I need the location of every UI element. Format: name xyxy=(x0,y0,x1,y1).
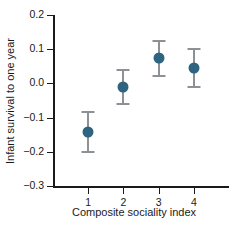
plot-area: 0.20.10.0−0.1−0.2−0.3 1234 xyxy=(53,15,229,188)
x-axis-label: Composite sociality index xyxy=(36,206,232,218)
error-bar-cap-lower xyxy=(82,151,95,153)
x-tick: 1 xyxy=(88,188,89,194)
data-point-marker xyxy=(83,126,94,137)
y-tick: −0.2 xyxy=(47,152,53,153)
chart-figure: Infant survival to one year 0.20.10.0−0.… xyxy=(0,0,237,228)
y-tick-label: −0.1 xyxy=(23,111,44,123)
x-tick: 2 xyxy=(123,188,124,194)
error-bar-cap-lower xyxy=(152,75,165,77)
y-tick: −0.3 xyxy=(47,186,53,187)
x-axis-line xyxy=(53,186,229,188)
error-bar-cap-upper xyxy=(117,69,130,71)
data-point-marker xyxy=(153,52,164,63)
data-point-marker xyxy=(118,82,129,93)
y-tick-label: 0.0 xyxy=(29,76,44,88)
error-bar-cap-upper xyxy=(187,48,200,50)
y-tick: 0.1 xyxy=(47,49,53,50)
y-tick: 0.0 xyxy=(47,83,53,84)
y-tick-label: −0.3 xyxy=(23,179,44,191)
y-tick-label: 0.1 xyxy=(29,42,44,54)
y-tick: −0.1 xyxy=(47,118,53,119)
data-point-marker xyxy=(188,63,199,74)
y-tick-label: 0.2 xyxy=(29,8,44,20)
y-axis-line xyxy=(53,15,55,188)
x-tick: 3 xyxy=(159,188,160,194)
error-bar-cap-upper xyxy=(82,111,95,113)
x-tick: 4 xyxy=(194,188,195,194)
error-bar-cap-upper xyxy=(152,40,165,42)
y-axis-label: Infant survival to one year xyxy=(2,6,18,196)
error-bar-cap-lower xyxy=(187,86,200,88)
y-tick-label: −0.2 xyxy=(23,145,44,157)
error-bar-cap-lower xyxy=(117,103,130,105)
y-tick: 0.2 xyxy=(47,15,53,16)
